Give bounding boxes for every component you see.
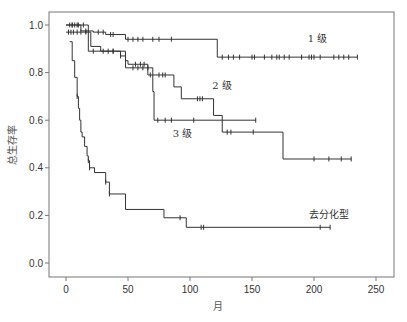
series-grade-1: 1 级 (66, 23, 357, 60)
x-tick-label: 100 (182, 284, 199, 295)
y-tick-label: 0.8 (29, 67, 43, 78)
survival-chart: 050100150200250 0.00.20.40.60.81.0 1 级2 … (0, 0, 407, 322)
series-label-grade-3: 3 级 (173, 128, 193, 139)
x-tick-label: 150 (244, 284, 261, 295)
y-tick-label: 0.4 (29, 162, 43, 173)
series-label-grade-2: 2 级 (212, 80, 232, 91)
series-group: 1 级2 级3 级去分化型 (66, 23, 357, 230)
y-tick-label: 0.6 (29, 115, 43, 126)
survival-curve-dedifferentiated (70, 42, 330, 228)
series-label-grade-1: 1 级 (308, 33, 328, 44)
x-axis-title: 月 (213, 301, 223, 312)
y-axis: 0.00.20.40.60.81.0 (29, 20, 49, 269)
x-tick-label: 0 (63, 284, 69, 295)
x-tick-label: 200 (306, 284, 323, 295)
y-tick-label: 0.0 (29, 258, 43, 269)
y-axis-title: 总生存率 (6, 125, 18, 165)
series-label-dedifferentiated: 去分化型 (309, 208, 349, 220)
plot-frame (49, 12, 394, 277)
x-tick-label: 250 (368, 284, 385, 295)
y-tick-label: 1.0 (29, 20, 43, 31)
series-dedifferentiated: 去分化型 (70, 42, 349, 230)
x-axis: 050100150200250 (63, 277, 385, 295)
x-tick-label: 50 (122, 284, 134, 295)
series-grade-2: 2 级 (66, 30, 351, 162)
y-tick-label: 0.2 (29, 210, 43, 221)
